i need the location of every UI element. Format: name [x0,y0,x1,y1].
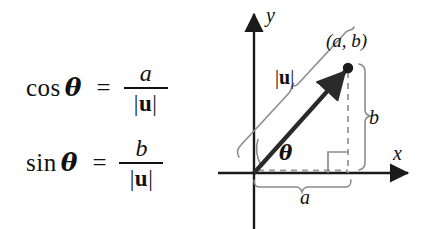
sine-equals-sign: = [92,149,106,177]
point-coordinate-label: (a, b) [326,30,367,52]
equation-panel: cos θ = a |u| sin θ = b |u| [0,0,212,229]
magnitude-close-bar: | [290,66,294,88]
vector-trigonometry-figure: cos θ = a |u| sin θ = b |u| [0,0,424,229]
sine-equation: sin θ = b |u| [26,135,163,190]
cosine-denominator-close-bar: | [152,91,157,116]
y-axis-label: y [266,4,275,27]
angle-label: θ [279,141,292,165]
cosine-denominator-vector: u [139,91,152,116]
sine-denominator-close-bar: | [148,166,153,191]
angle-arc [257,139,262,166]
vector-diagram: y x (a, b) b a θ |u| [212,0,424,229]
sine-angle-symbol: θ [61,148,78,177]
point-marker [343,63,353,73]
vector-arrow [254,72,345,174]
cosine-fraction: a |u| [124,61,168,116]
cosine-function-label: cos [26,74,61,102]
sine-denominator: |u| [123,164,161,191]
cosine-angle-symbol: θ [65,73,82,102]
magnitude-label: |u| [275,66,294,89]
magnitude-vector-symbol: u [279,66,290,88]
cosine-numerator: a [133,61,159,87]
sine-denominator-vector: u [135,166,148,191]
cosine-equation: cos θ = a |u| [26,60,168,115]
sine-function-label: sin [26,149,57,177]
vertical-component-label: b [369,106,379,129]
horizontal-component-label: a [300,186,310,209]
sine-fraction: b |u| [119,136,163,191]
x-axis-label: x [393,142,402,165]
cosine-denominator: |u| [127,89,165,116]
vector-diagram-canvas [212,0,424,229]
sine-numerator: b [128,136,154,162]
cosine-equals-sign: = [97,74,111,102]
